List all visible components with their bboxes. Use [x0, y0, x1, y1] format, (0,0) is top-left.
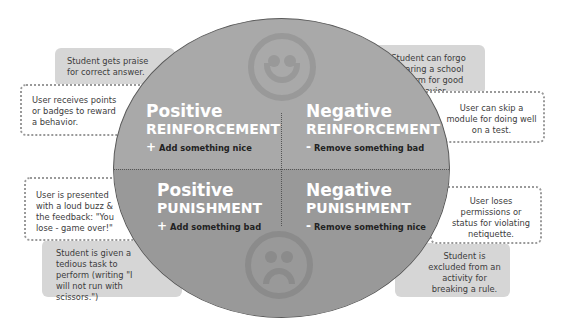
quadrant-subtitle: PUNISHMENT — [157, 200, 262, 216]
example-text: User can skip a module for doing well on… — [446, 103, 537, 136]
quadrant-title: Negative — [306, 102, 440, 121]
quadrant-title: Positive — [157, 181, 262, 200]
example-text: User loses permissions or status for vio… — [448, 196, 534, 240]
action-text: Add something bad — [170, 222, 261, 232]
smiley-face-icon — [248, 33, 316, 101]
quadrant-action: -Remove something bad — [306, 140, 440, 154]
quadrant-action: -Remove something nice — [306, 219, 426, 233]
action-text: Remove something nice — [314, 222, 426, 232]
quadrant-subtitle: REINFORCEMENT — [306, 121, 440, 137]
smile-mouth — [264, 63, 300, 83]
quadrant-action: +Add something bad — [157, 219, 262, 233]
quadrant-subtitle: PUNISHMENT — [306, 200, 426, 216]
eye — [281, 251, 293, 263]
example-text: User receives points or badges to reward… — [32, 95, 122, 128]
minus-icon: - — [306, 219, 311, 233]
minus-icon: - — [306, 140, 311, 154]
quadrant-negative-punishment: Negative PUNISHMENT -Remove something ni… — [306, 181, 426, 233]
quadrant-title: Negative — [306, 181, 426, 200]
eye — [265, 251, 277, 263]
action-text: Add something nice — [159, 143, 252, 153]
example-text: Student gets praise for correct answer. — [67, 56, 159, 78]
sad-face-icon — [245, 231, 313, 299]
vertical-divider — [281, 113, 282, 226]
reinforcement-punishment-circle: Positive REINFORCEMENT +Add something ni… — [113, 18, 450, 318]
example-text: User is presented with a loud buzz & the… — [36, 190, 118, 234]
plus-icon: + — [146, 140, 156, 154]
quadrant-action: +Add something nice — [146, 140, 280, 154]
quadrant-title: Positive — [146, 102, 280, 121]
plus-icon: + — [157, 219, 167, 233]
quadrant-subtitle: REINFORCEMENT — [146, 121, 280, 137]
action-text: Remove something bad — [314, 143, 424, 153]
quadrant-positive-reinforcement: Positive REINFORCEMENT +Add something ni… — [146, 102, 280, 154]
frown-mouth — [263, 268, 295, 284]
quadrant-positive-punishment: Positive PUNISHMENT +Add something bad — [157, 181, 262, 233]
quadrant-negative-reinforcement: Negative REINFORCEMENT -Remove something… — [306, 102, 440, 154]
